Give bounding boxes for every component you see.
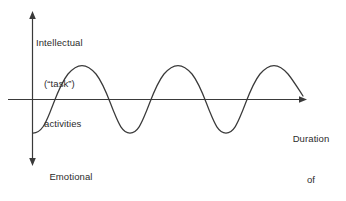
y-axis-negative-label: Emotional behaviour (open or suppressed) [26,143,116,201]
x-axis-label-line1: Duration [276,132,346,146]
y-axis-positive-label-line1: Intellectual [36,36,83,50]
y-axis-positive-label: Intellectual (“task”) activities [36,9,83,158]
y-axis-positive-label-line2: (“task”) [36,77,83,91]
arrow-up-icon [29,11,36,19]
arrow-right-icon [299,96,307,103]
negotiation-behaviour-diagram: Intellectual (“task”) activities Emotion… [0,0,346,201]
x-axis-label: Duration of negotiation [276,105,346,201]
x-axis-label-line2: of [276,173,346,187]
y-axis-positive-label-line3: activities [36,117,83,131]
y-axis-negative-label-line1: Emotional [26,170,116,184]
